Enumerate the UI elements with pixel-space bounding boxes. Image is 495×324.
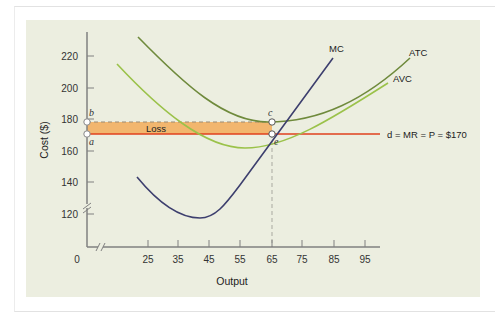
point-e-label: e (274, 136, 279, 147)
x-tick-label: 0 (74, 254, 80, 265)
y-tick-label: 160 (61, 146, 78, 157)
x-tick-label: 75 (296, 254, 308, 265)
atc-label: ATC (409, 47, 427, 58)
x-tick-label: 35 (172, 254, 184, 265)
avc-label: AVC (393, 73, 412, 84)
y-tick-label: 200 (61, 83, 78, 94)
point-b (84, 119, 90, 125)
point-c-label: c (268, 107, 273, 118)
x-ticks (148, 240, 365, 247)
point-a-label: a (89, 136, 94, 147)
x-tick-label: 25 (142, 254, 154, 265)
mc-label: MC (329, 43, 344, 54)
y-tick-label: 120 (61, 209, 78, 220)
x-tick-label: 85 (328, 254, 340, 265)
loss-label: Loss (146, 123, 166, 134)
x-tick-label: 65 (266, 254, 278, 265)
loss-area (87, 122, 272, 134)
y-axis-title: Cost ($) (38, 121, 50, 158)
x-tick-label: 45 (203, 254, 215, 265)
point-c (269, 119, 275, 125)
x-axis-title: Output (216, 275, 248, 287)
x-tick-label: 55 (234, 254, 246, 265)
cost-chart: Loss 220 200 180 160 140 120 0 25 35 45 … (0, 0, 495, 324)
point-b-label: b (89, 107, 94, 118)
mc-curve (137, 58, 333, 218)
avc-curve (117, 64, 388, 148)
x-tick-label: 95 (359, 254, 371, 265)
y-tick-label: 180 (61, 114, 78, 125)
y-tick-label: 140 (61, 177, 78, 188)
demand-label: d = MR = P = $170 (387, 129, 467, 140)
atc-curve (138, 37, 410, 122)
y-tick-label: 220 (61, 51, 78, 62)
